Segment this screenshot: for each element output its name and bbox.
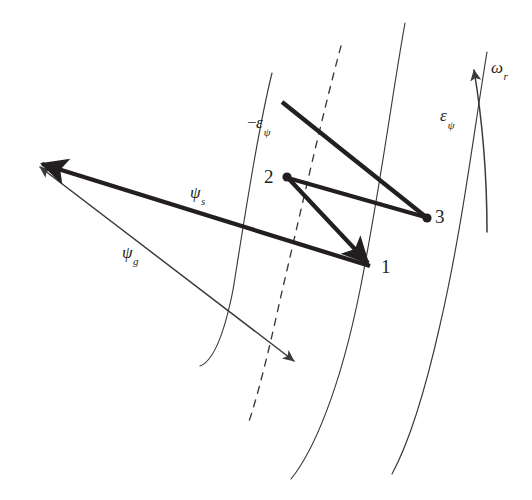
psi-s-subscript: s <box>201 195 205 207</box>
epsilon-positive-symbol: ε <box>440 106 447 125</box>
label-point-2: 2 <box>264 167 274 186</box>
label-point-1: 1 <box>381 257 391 276</box>
psi-g-line-group <box>40 167 294 361</box>
node-2-dot <box>282 172 291 181</box>
flux-vectors <box>42 102 426 266</box>
omega-subscript: r <box>504 70 508 82</box>
reference-arcs <box>200 23 487 479</box>
psi-g-subscript: g <box>133 255 139 267</box>
label-psi-s: ψs <box>190 184 205 204</box>
vector-diagram-svg <box>0 0 532 500</box>
minus-sign: − <box>247 113 256 132</box>
epsilon-negative-symbol: ε <box>256 113 263 132</box>
label-psi-g: ψg <box>122 244 138 264</box>
label-epsilon-psi-negative: −εψ <box>247 114 270 134</box>
epsilon-positive-subscript: ψ <box>448 119 455 131</box>
figure-canvas: 1 2 3 ψs ψg −εψ εψ ωr <box>0 0 532 500</box>
arc-outer-solid <box>291 23 405 479</box>
node-3-dot <box>422 213 431 222</box>
psi-s-symbol: ψ <box>190 183 201 202</box>
psi-g-symbol: ψ <box>122 243 133 262</box>
label-point-3: 3 <box>435 207 445 226</box>
label-omega-r: ωr <box>491 59 507 79</box>
arc-middle-dashed <box>248 46 341 424</box>
epsilon-negative-subscript: ψ <box>264 126 271 138</box>
psi-g-line <box>40 167 294 361</box>
label-epsilon-psi-positive: εψ <box>440 107 454 127</box>
omega-symbol: ω <box>491 58 503 77</box>
